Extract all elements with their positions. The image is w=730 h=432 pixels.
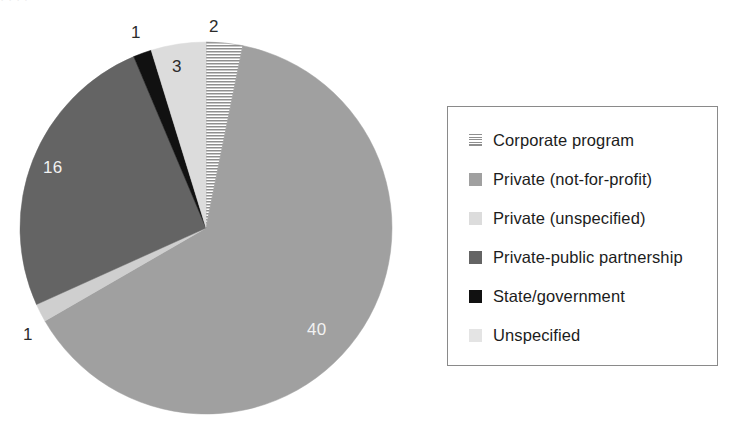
legend-swatch-icon [469,173,482,186]
legend-item: Private (not-for-profit) [469,160,711,199]
pie-plot-area: 21316140 [0,0,430,432]
pie-svg [0,0,430,432]
pie-data-label: 16 [43,159,62,176]
legend-swatch-icon [469,134,482,147]
legend-label: Private (not-for-profit) [493,171,652,188]
pie-data-label: 1 [23,326,33,343]
legend-label: Private (unspecified) [493,210,646,227]
pie-slice-group [20,42,392,414]
legend-item: Private-public partnership [469,238,711,277]
legend-label: Unspecified [493,327,580,344]
legend-label: Private-public partnership [493,249,683,266]
pie-data-label: 1 [131,24,141,41]
legend-item: Unspecified [469,316,711,355]
chart-legend: Corporate programPrivate (not-for-profit… [447,106,718,366]
pie-data-label: 3 [172,58,182,75]
pie-data-label: 2 [209,18,219,35]
legend-label: State/government [493,288,625,305]
pie-chart-figure: · · · · 21316140 Corporate programPrivat… [0,0,730,432]
pie-data-label: 40 [307,321,326,338]
legend-swatch-icon [469,290,482,303]
legend-swatch-icon [469,329,482,342]
legend-label: Corporate program [493,132,634,149]
legend-item-list: Corporate programPrivate (not-for-profit… [469,121,711,355]
legend-item: Corporate program [469,121,711,160]
legend-item: Private (unspecified) [469,199,711,238]
legend-swatch-icon [469,251,482,264]
legend-swatch-icon [469,212,482,225]
legend-item: State/government [469,277,711,316]
